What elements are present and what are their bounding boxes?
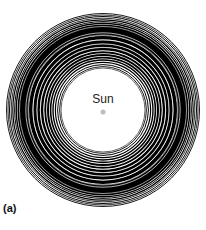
sun-dot-icon <box>101 110 106 115</box>
asteroid-orbit-diagram <box>0 0 206 230</box>
sun-label: Sun <box>0 92 206 106</box>
panel-label: (a) <box>3 202 16 214</box>
